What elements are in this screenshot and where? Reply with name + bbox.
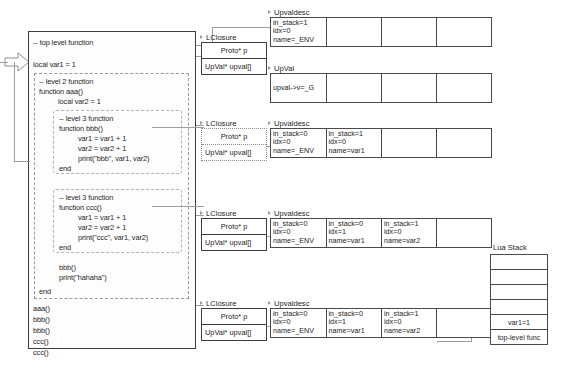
upvaldesc-cell: in_stack=0 idx=1 name=var1 (327, 219, 383, 247)
upvaldesc-cell (437, 129, 492, 157)
group4-lclosure-title: LClosure (200, 299, 236, 308)
group1-upvaldesc-table: in_stack=1 idx=0 name=_ENV (270, 17, 492, 47)
upvaldesc-cell: in_stack=0 idx=0 name=_ENV (271, 219, 327, 247)
arrow-bullet-icon (200, 35, 203, 39)
group1-upval-cell: UpVal* upval[] (202, 59, 266, 75)
group4-proto-cell: Proto* p (202, 309, 266, 325)
group2-lclosure-title: LClosure (200, 119, 236, 128)
level3-ccc-stmt2: var2 = var2 + 1 (78, 223, 126, 232)
upvaldesc-cell: in_stack=0 idx=0 name=_ENV (271, 129, 327, 157)
arrow-bullet-icon (268, 211, 271, 215)
lua-stack-slot (491, 300, 547, 315)
level3-bbb-signature: function bbb() (59, 124, 103, 133)
upvaldesc-cell: in_stack=1 idx=0 name=var2 (382, 219, 437, 247)
connector-bbb-print (152, 127, 204, 128)
level3-ccc-signature: function ccc() (59, 203, 102, 212)
group2-upvaldesc-table: in_stack=0 idx=0 name=_ENV in_stack=1 id… (270, 128, 492, 158)
connector-stack-link (437, 341, 471, 342)
group1-upval-table: upval->v=_G (270, 73, 492, 103)
level3-bbb-comment: -- level 3 function (59, 114, 113, 123)
level2-signature: function aaa() (39, 87, 83, 96)
group2-upvaldesc-title: Upvaldesc (268, 119, 309, 128)
group4-upvaldesc-title: Upvaldesc (268, 299, 309, 308)
lua-stack-slot (491, 285, 547, 300)
level2-function-box (34, 73, 189, 299)
level3-bbb-stmt1: var1 = var1 + 1 (78, 134, 126, 143)
group3-upval-cell: UpVal* upval[] (202, 235, 266, 251)
level3-bbb-end: end (59, 164, 71, 173)
call-bbb-2: bbb() (33, 326, 50, 335)
lua-stack-slot-var1: var1=1 (491, 315, 547, 330)
connector-closure1-desc-h (212, 27, 270, 28)
upval-cell: upval->v=_G (271, 74, 327, 102)
connector-ccc-print (152, 206, 204, 207)
group1-upval-title: UpVal (268, 64, 294, 73)
group3-proto-cell: Proto* p (202, 219, 266, 235)
group3-upvaldesc-table: in_stack=0 idx=0 name=_ENV in_stack=0 id… (270, 218, 492, 248)
level2-print-hahaha: print("hahaha") (59, 273, 107, 282)
level2-call-bbb: bbb() (59, 263, 76, 272)
diagram-canvas: -- top level function local var1 = 1 -- … (0, 0, 568, 374)
upval-cell (327, 74, 383, 102)
group3-lclosure-box: Proto* p UpVal* upval[] (201, 218, 267, 251)
group1-upvaldesc-title: Upvaldesc (268, 8, 309, 17)
arrow-bullet-icon (268, 301, 271, 305)
connector-entry (0, 62, 8, 63)
upvaldesc-cell: in_stack=0 idx=0 name=_ENV (271, 309, 327, 337)
upvaldesc-cell: in_stack=1 idx=0 name=var2 (382, 309, 437, 337)
call-ccc-1: ccc() (33, 337, 49, 346)
lua-stack-slot (491, 270, 547, 285)
code-panel: -- top level function local var1 = 1 -- … (28, 31, 196, 349)
arrow-bullet-icon (268, 121, 271, 125)
arrow-bullet-icon (200, 121, 203, 125)
upval-cell (382, 74, 437, 102)
level3-bbb-stmt3: print("bbb", var1, var2) (78, 154, 149, 163)
upvaldesc-cell: in_stack=1 idx=0 name=var1 (327, 129, 383, 157)
level2-end: end (39, 287, 51, 296)
lua-stack: var1=1 top-level func (490, 254, 548, 345)
lua-stack-slot-top-level-func: top-level func (491, 330, 547, 345)
group4-lclosure-box: Proto* p UpVal* upval[] (201, 308, 267, 341)
lua-stack-label: Lua Stack (493, 243, 527, 252)
upval-cell (437, 74, 492, 102)
group1-lclosure-box: Proto* p UpVal* upval[] (201, 42, 267, 75)
call-aaa: aaa() (33, 304, 50, 313)
connector-spine-left (14, 62, 15, 162)
level2-comment: -- level 2 function (39, 77, 93, 86)
level3-bbb-stmt2: var2 = var2 + 1 (78, 144, 126, 153)
upvaldesc-cell: in_stack=1 idx=0 name=_ENV (271, 18, 327, 46)
connector-spine-to-code (14, 161, 30, 162)
call-ccc-2: ccc() (33, 348, 49, 357)
upvaldesc-cell: in_stack=0 idx=1 name=var1 (327, 309, 383, 337)
level3-ccc-comment: -- level 3 function (59, 193, 113, 202)
upvaldesc-cell (382, 129, 437, 157)
upvaldesc-cell (437, 309, 492, 337)
call-bbb-1: bbb() (33, 315, 50, 324)
level2-local-var2: local var2 = 1 (58, 97, 101, 106)
upvaldesc-cell (382, 18, 437, 46)
group1-proto-cell: Proto* p (202, 43, 266, 59)
arrow-bullet-icon (200, 301, 203, 305)
level3-ccc-stmt1: var1 = var1 + 1 (78, 213, 126, 222)
level3-ccc-end: end (59, 243, 71, 252)
arrow-bullet-icon (268, 66, 271, 70)
upvaldesc-cell (437, 18, 492, 46)
code-local-var1: local var1 = 1 (33, 60, 76, 69)
level3-ccc-stmt3: print("ccc", var1, var2) (78, 233, 148, 242)
group4-upvaldesc-table: in_stack=0 idx=0 name=_ENV in_stack=0 id… (270, 308, 492, 338)
upvaldesc-cell (327, 18, 383, 46)
group1-lclosure-title: LClosure (200, 33, 236, 42)
group2-upval-cell: UpVal* upval[] (202, 145, 266, 161)
code-comment-top: -- top level function (33, 38, 93, 47)
group2-proto-cell: Proto* p (202, 129, 266, 145)
arrow-bullet-icon (268, 10, 271, 14)
group4-upval-cell: UpVal* upval[] (202, 325, 266, 341)
arrow-bullet-icon (200, 211, 203, 215)
group3-lclosure-title: LClosure (200, 209, 236, 218)
lua-stack-slot (491, 255, 547, 270)
group3-upvaldesc-title: Upvaldesc (268, 209, 309, 218)
upvaldesc-cell (437, 219, 492, 247)
group2-lclosure-box: Proto* p UpVal* upval[] (201, 128, 267, 161)
